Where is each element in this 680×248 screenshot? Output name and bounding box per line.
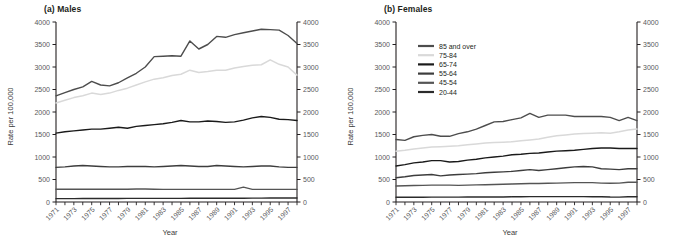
legend-label-65-74: 65-74: [439, 61, 457, 68]
y-tick-label-right: 3500: [303, 41, 319, 48]
x-tick-label: 1989: [205, 206, 221, 222]
y-tick-label-left: 2000: [34, 109, 50, 116]
y-tick-label-left: 0: [386, 199, 390, 206]
y-tick-label-right: 1000: [643, 154, 659, 161]
y-tick-label-right: 2500: [643, 86, 659, 93]
legend-label-75-84: 75-84: [439, 52, 457, 59]
x-tick-label: 1983: [491, 206, 507, 222]
legend-label-45-54: 45-54: [439, 79, 457, 86]
y-tick-label-left: 1000: [34, 154, 50, 161]
x-tick-label: 1979: [116, 206, 132, 222]
y-tick-label-right: 500: [303, 176, 315, 183]
panel-males: (a) Males Rate per 100,000 Year 00500500…: [0, 0, 340, 248]
plot-area-males: 0050050010001000150015002000200025002500…: [0, 0, 340, 248]
x-tick-label: 1995: [258, 206, 274, 222]
x-tick-label: 1985: [169, 206, 185, 222]
x-tick-label: 1987: [187, 206, 203, 222]
panel-females: (b) Females Rate per 100,000 Year 005005…: [340, 0, 680, 248]
x-tick-label: 1971: [384, 206, 400, 222]
line-series-85-and-over: [56, 29, 297, 96]
x-tick-label: 1979: [456, 206, 472, 222]
line-series-55-64: [396, 166, 637, 177]
y-tick-label-left: 3000: [34, 64, 50, 71]
y-tick-label-left: 1500: [374, 131, 390, 138]
y-tick-label-left: 0: [46, 199, 50, 206]
y-tick-label-right: 1500: [303, 131, 319, 138]
y-tick-label-left: 500: [38, 176, 50, 183]
y-tick-label-left: 2500: [374, 86, 390, 93]
y-tick-label-right: 4000: [643, 19, 659, 26]
line-series-45-54: [56, 187, 297, 189]
x-tick-label: 1997: [616, 206, 632, 222]
y-tick-label-left: 1500: [34, 131, 50, 138]
x-tick-label: 1993: [581, 206, 597, 222]
x-tick-label: 1973: [62, 206, 78, 222]
x-tick-label: 1973: [402, 206, 418, 222]
legend-label-55-64: 55-64: [439, 70, 457, 77]
x-tick-label: 1981: [474, 206, 490, 222]
y-tick-label-left: 4000: [34, 19, 50, 26]
x-tick-label: 1975: [80, 206, 96, 222]
x-tick-label: 1993: [241, 206, 257, 222]
x-tick-label: 1983: [151, 206, 167, 222]
y-tick-label-right: 2000: [303, 109, 319, 116]
x-tick-label: 1971: [44, 206, 60, 222]
y-tick-label-left: 2500: [34, 86, 50, 93]
y-tick-label-right: 500: [643, 176, 655, 183]
x-tick-label: 1989: [545, 206, 561, 222]
y-tick-label-left: 1000: [374, 154, 390, 161]
y-tick-label-left: 500: [378, 176, 390, 183]
line-series-55-64: [56, 166, 297, 168]
line-series-85-and-over: [396, 113, 637, 140]
y-tick-label-right: 3000: [303, 64, 319, 71]
y-tick-label-right: 3500: [643, 41, 659, 48]
y-tick-label-right: 1000: [303, 154, 319, 161]
y-tick-label-right: 3000: [643, 64, 659, 71]
y-tick-label-right: 2000: [643, 109, 659, 116]
x-tick-label: 1995: [598, 206, 614, 222]
x-tick-label: 1981: [134, 206, 150, 222]
y-tick-label-left: 4000: [374, 19, 390, 26]
y-tick-label-left: 3500: [34, 41, 50, 48]
line-series-20-44: [56, 198, 297, 199]
line-series-45-54: [396, 182, 637, 186]
x-tick-label: 1985: [509, 206, 525, 222]
y-tick-label-right: 1500: [643, 131, 659, 138]
x-tick-label: 1977: [438, 206, 454, 222]
y-tick-label-right: 0: [643, 199, 647, 206]
line-series-20-44: [396, 197, 637, 198]
line-series-65-74: [396, 148, 637, 166]
y-tick-label-left: 2000: [374, 109, 390, 116]
y-tick-label-left: 3500: [374, 41, 390, 48]
y-tick-label-right: 0: [303, 199, 307, 206]
y-tick-label-left: 3000: [374, 64, 390, 71]
x-tick-label: 1977: [98, 206, 114, 222]
plot-area-females: 0050050010001000150015002000200025002500…: [340, 0, 680, 248]
x-tick-label: 1987: [527, 206, 543, 222]
figure-root: (a) Males Rate per 100,000 Year 00500500…: [0, 0, 680, 248]
y-tick-label-right: 4000: [303, 19, 319, 26]
legend-label-85-and-over: 85 and over: [439, 43, 477, 50]
legend-label-20-44: 20-44: [439, 89, 457, 96]
line-series-65-74: [56, 117, 297, 134]
x-tick-label: 1991: [563, 206, 579, 222]
x-tick-label: 1997: [276, 206, 292, 222]
y-tick-label-right: 2500: [303, 86, 319, 93]
x-tick-label: 1975: [420, 206, 436, 222]
x-tick-label: 1991: [223, 206, 239, 222]
